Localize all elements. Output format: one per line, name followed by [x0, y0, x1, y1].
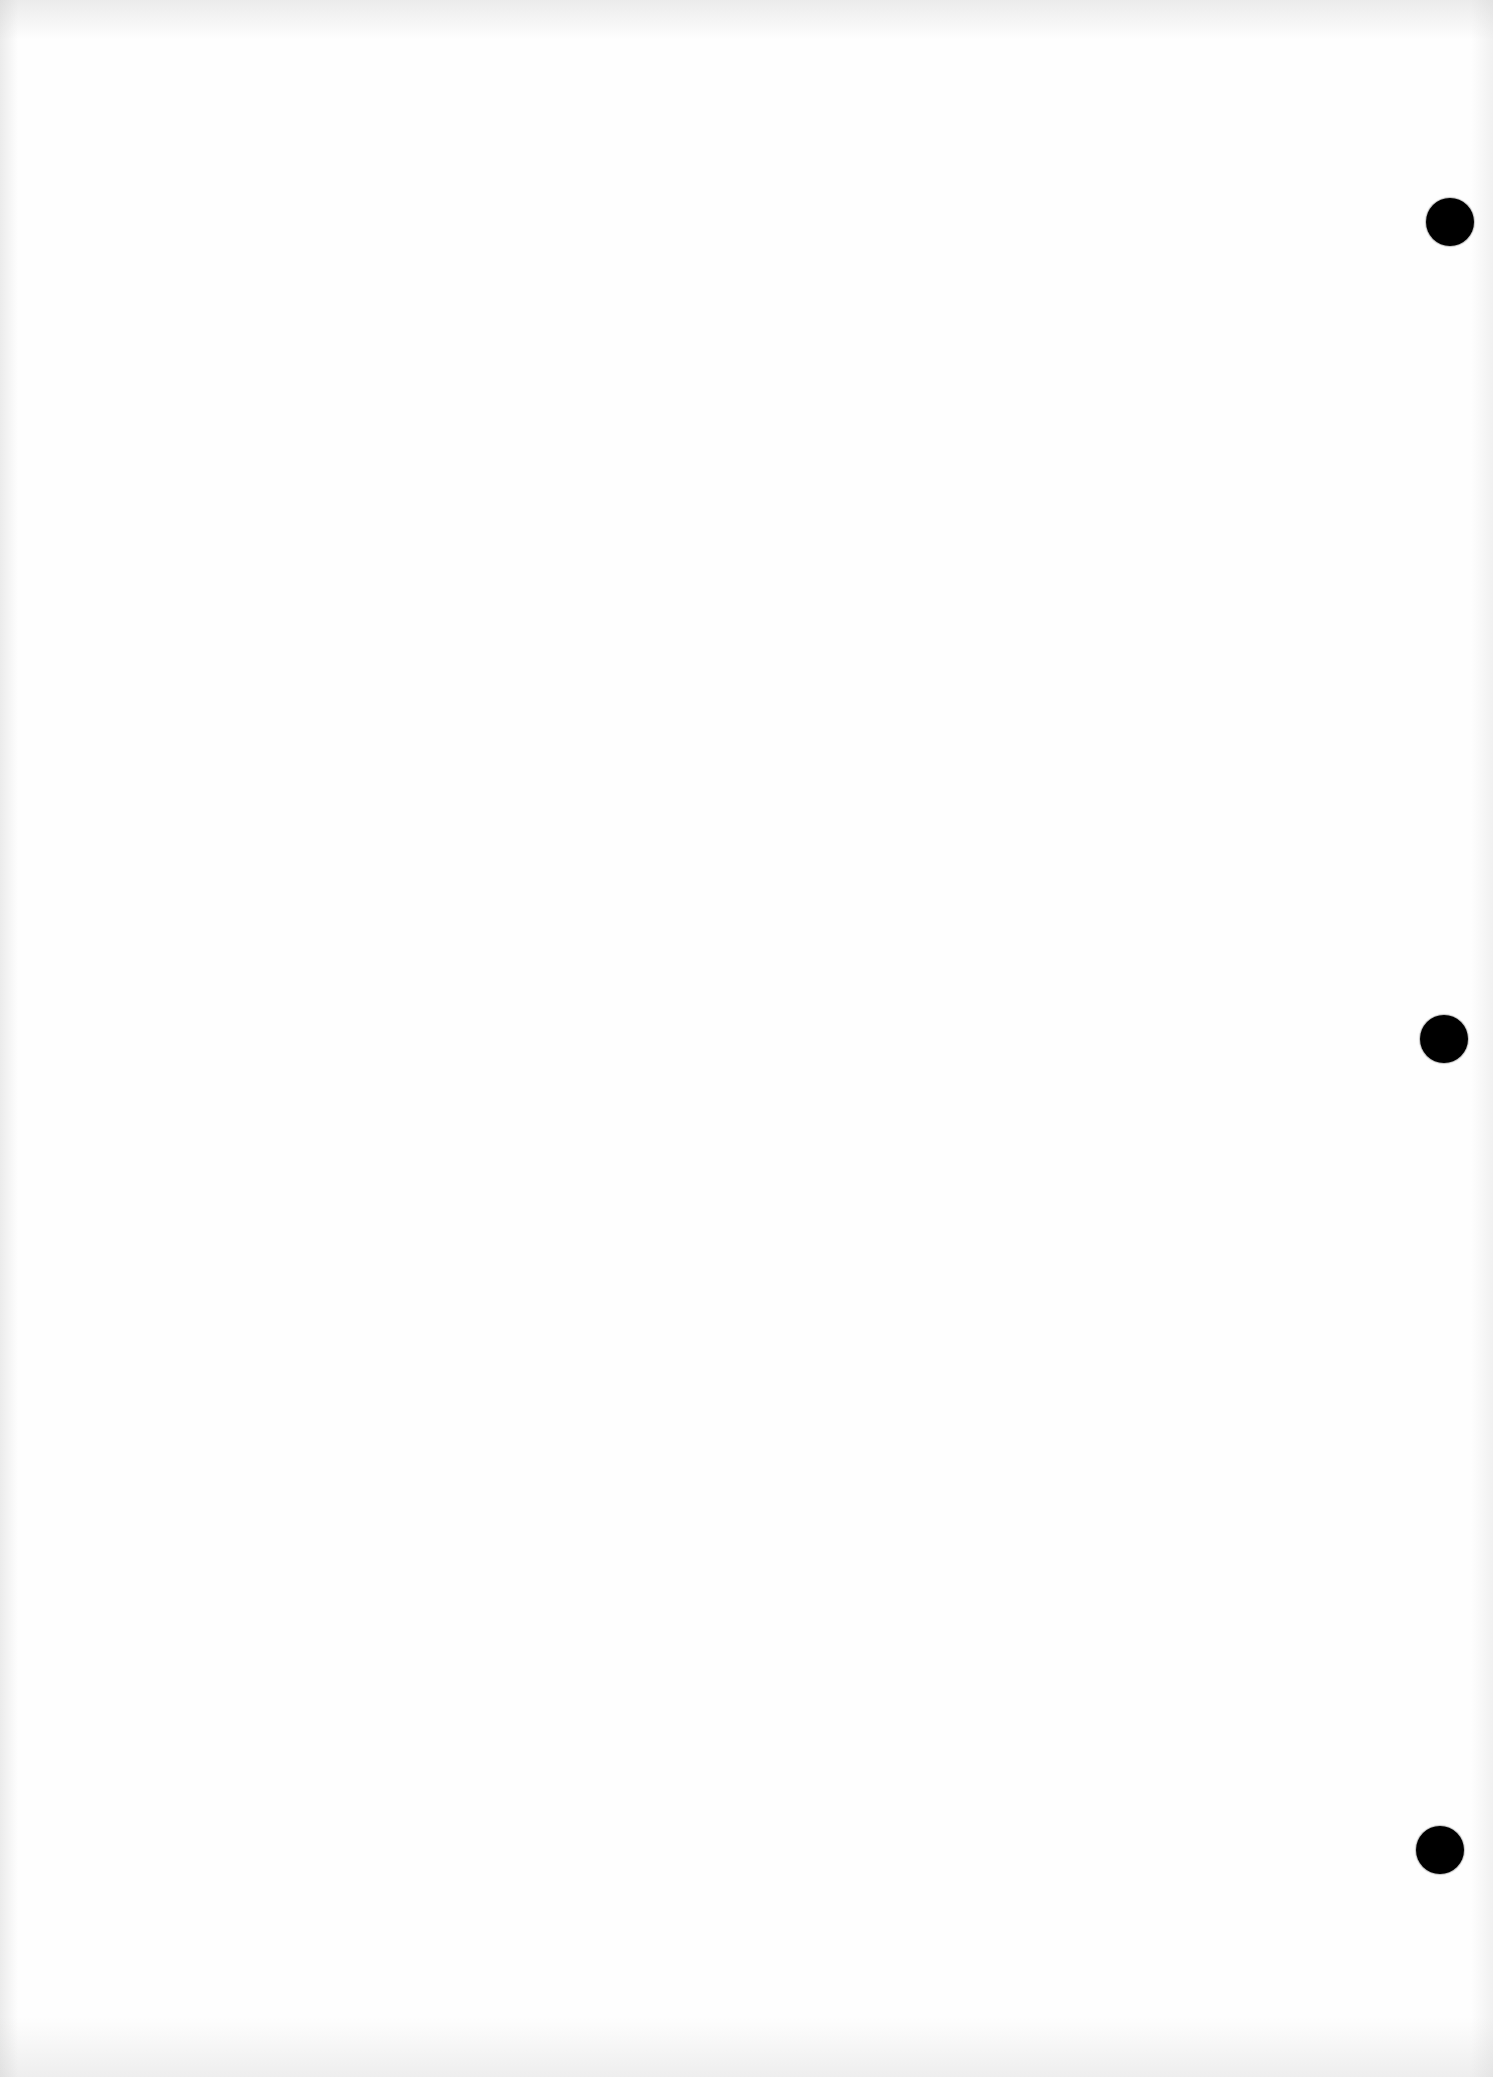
blank-page [0, 0, 1493, 2077]
punch-hole-bottom [1416, 1826, 1464, 1874]
punch-hole-middle [1420, 1015, 1468, 1063]
punch-hole-top [1426, 198, 1474, 246]
